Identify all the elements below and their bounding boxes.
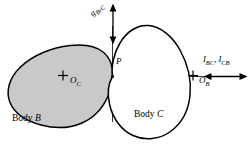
body-c-shape bbox=[108, 25, 190, 138]
diagram-canvas bbox=[0, 0, 252, 148]
contact-point-marker bbox=[111, 75, 114, 78]
gap-arrow bbox=[110, 4, 117, 45]
ob-subscript: B bbox=[206, 80, 210, 87]
contact-mechanics-diagram: gBrC IBC, ICB P OC OB Body B Body C bbox=[0, 0, 252, 148]
body-b-label: Body B bbox=[12, 114, 41, 124]
force-arrow bbox=[204, 73, 248, 80]
body-c-label: Body C bbox=[134, 110, 163, 120]
body-b-symbol: B bbox=[35, 113, 41, 123]
oc-subscript: C bbox=[77, 80, 81, 87]
force-label-2-sub: CB bbox=[221, 59, 229, 66]
force-arrow-label: IBC, ICB bbox=[203, 55, 230, 66]
contact-point-label: P bbox=[116, 57, 122, 66]
body-c-symbol: C bbox=[157, 109, 163, 119]
center-label-ob: OB bbox=[199, 76, 209, 87]
center-label-oc: OC bbox=[70, 76, 81, 87]
body-c-prefix: Body bbox=[134, 109, 157, 119]
body-b-prefix: Body bbox=[12, 113, 35, 123]
force-label-1-sub: BC bbox=[206, 59, 214, 66]
